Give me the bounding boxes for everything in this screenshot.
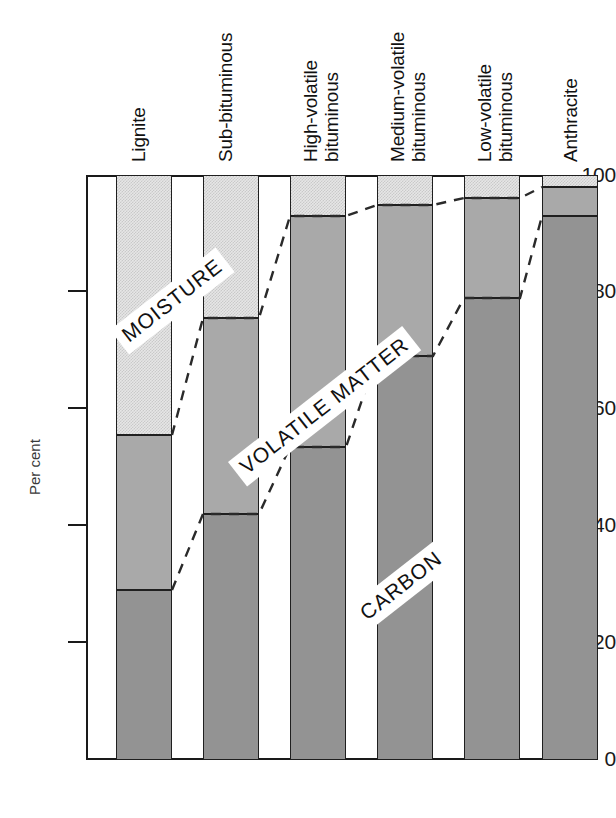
y-axis-title: Per cent [26,439,43,495]
category-label-sub-bituminous-line1: Sub-bituminous [215,33,236,162]
segment-carbon-low-volatile-bituminous[interactable] [464,298,520,760]
bar-low-volatile-bituminous[interactable] [464,175,520,760]
category-label-high-volatile-bituminous: High-volatile bituminous [300,60,342,162]
y-tick-mark-40 [68,524,86,526]
category-label-medium-volatile-bituminous: Medium-volatile bituminous [387,32,429,162]
bar-anthracite[interactable] [542,175,598,760]
segment-volatile-low-volatile-bituminous[interactable] [464,198,520,298]
segment-moisture-anthracite[interactable] [542,175,598,187]
y-tick-mark-60 [68,407,86,409]
bar-medium-volatile-bituminous[interactable] [377,175,433,760]
segment-carbon-high-volatile-bituminous[interactable] [290,447,346,760]
y-tick-mark-20 [68,641,86,643]
category-label-anthracite-line1: Anthracite [560,78,581,162]
segment-carbon-lignite[interactable] [116,590,172,760]
category-label-low-volatile-bituminous-line2: bituminous [495,64,516,162]
segment-volatile-anthracite[interactable] [542,187,598,216]
category-label-medium-volatile-bituminous-line2: bituminous [408,32,429,162]
segment-volatile-lignite[interactable] [116,435,172,590]
category-label-sub-bituminous: Sub-bituminous [215,33,236,162]
category-label-low-volatile-bituminous-line1: Low-volatile [474,64,495,162]
bar-lignite[interactable] [116,175,172,760]
segment-moisture-sub-bituminous[interactable] [203,175,259,318]
category-label-anthracite: Anthracite [560,78,581,162]
y-tick-mark-80 [68,290,86,292]
segment-moisture-high-volatile-bituminous[interactable] [290,175,346,216]
category-label-low-volatile-bituminous: Low-volatile bituminous [474,64,516,162]
category-label-medium-volatile-bituminous-line1: Medium-volatile [387,32,408,162]
category-label-high-volatile-bituminous-line2: bituminous [321,60,342,162]
segment-moisture-low-volatile-bituminous[interactable] [464,175,520,198]
segment-moisture-medium-volatile-bituminous[interactable] [377,175,433,205]
segment-volatile-sub-bituminous[interactable] [203,318,259,514]
chart-root: 100 80 60 40 20 0 Per cent [0,0,616,818]
segment-carbon-sub-bituminous[interactable] [203,514,259,760]
category-label-lignite: Lignite [128,107,149,162]
bar-high-volatile-bituminous[interactable] [290,175,346,760]
category-label-high-volatile-bituminous-line1: High-volatile [300,60,321,162]
segment-carbon-anthracite[interactable] [542,216,598,760]
category-label-lignite-line1: Lignite [128,107,149,162]
